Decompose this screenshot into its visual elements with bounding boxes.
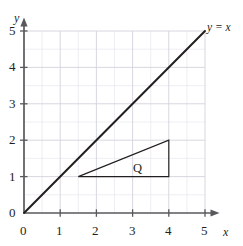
x-tick-label-4: 4 (165, 224, 172, 237)
x-tick-label-0: 0 (20, 224, 27, 237)
line-label-y-equals-x: y = x (207, 22, 231, 34)
y-tick-label-3: 3 (9, 97, 16, 110)
y-axis (20, 18, 27, 214)
x-tick-label-2: 2 (92, 224, 99, 237)
coordinate-plane-svg (0, 0, 243, 246)
y-tick-label-4: 4 (9, 60, 16, 73)
x-tick-label-5: 5 (201, 224, 208, 237)
y-tick-label-2: 2 (9, 133, 16, 146)
y-tick-label-0: 0 (9, 206, 16, 219)
x-tick-label-1: 1 (56, 224, 63, 237)
x-axis (24, 209, 220, 216)
y-tick-label-5: 5 (9, 24, 16, 37)
y-tick-label-1: 1 (9, 170, 16, 183)
region-label-q: Q (133, 162, 142, 175)
y-axis-label: y (14, 12, 19, 24)
x-tick-label-3: 3 (129, 224, 136, 237)
graph-figure: 5 4 3 2 1 0 0 1 2 3 4 5 y x y = x Q (0, 0, 243, 246)
x-axis-label: x (223, 226, 228, 238)
